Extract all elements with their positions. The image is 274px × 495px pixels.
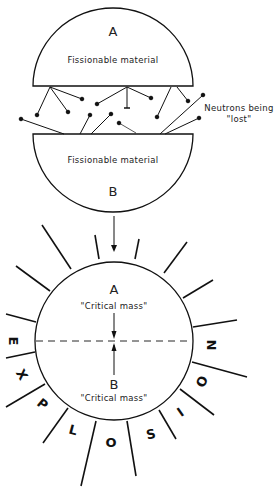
burst-letter-l: L <box>67 422 79 439</box>
piece-b: B Fissionable material <box>33 134 193 212</box>
neutron-tracks <box>19 87 205 134</box>
burst-letter-i: I <box>174 405 187 420</box>
burst-letter-x: X <box>13 366 31 382</box>
neutron-label-line1: Neutrons being <box>204 103 273 113</box>
piece-b-label: Fissionable material <box>68 155 159 165</box>
burst-letter-e: E <box>6 337 21 346</box>
burst-letter-n: N <box>204 340 219 351</box>
piece-a: A Fissionable material <box>33 8 193 86</box>
burst-letter-s: S <box>145 426 157 443</box>
piece-a-shape <box>33 8 193 86</box>
half-a-label: "Critical mass" <box>80 301 147 311</box>
half-b-label: "Critical mass" <box>80 393 147 403</box>
burst-letter-o2: O <box>193 373 211 389</box>
piece-b-shape <box>33 134 193 212</box>
neutron-label-line2: "lost" <box>227 114 252 124</box>
fission-diagram: A Fissionable material B Fissionable mat… <box>0 0 274 495</box>
half-a-letter: A <box>110 282 119 297</box>
burst-letter-p: P <box>34 395 51 413</box>
piece-a-label: Fissionable material <box>68 55 159 65</box>
combine-arrow <box>111 216 117 252</box>
piece-b-letter: B <box>109 184 118 199</box>
burst-letter-o1: O <box>105 435 116 450</box>
piece-a-letter: A <box>109 24 118 39</box>
half-b-letter: B <box>110 377 119 392</box>
